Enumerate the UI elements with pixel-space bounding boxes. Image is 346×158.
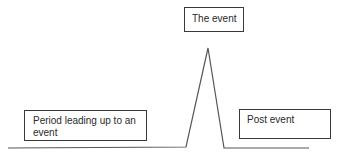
pre-event-label-box: Period leading up to an event (24, 110, 147, 141)
post-event-label-text: Post event (247, 114, 294, 125)
event-label-text: The event (192, 13, 236, 24)
post-event-label-box: Post event (239, 109, 331, 139)
pre-event-label-text: Period leading up to an event (33, 115, 136, 138)
event-label-box: The event (184, 7, 244, 32)
